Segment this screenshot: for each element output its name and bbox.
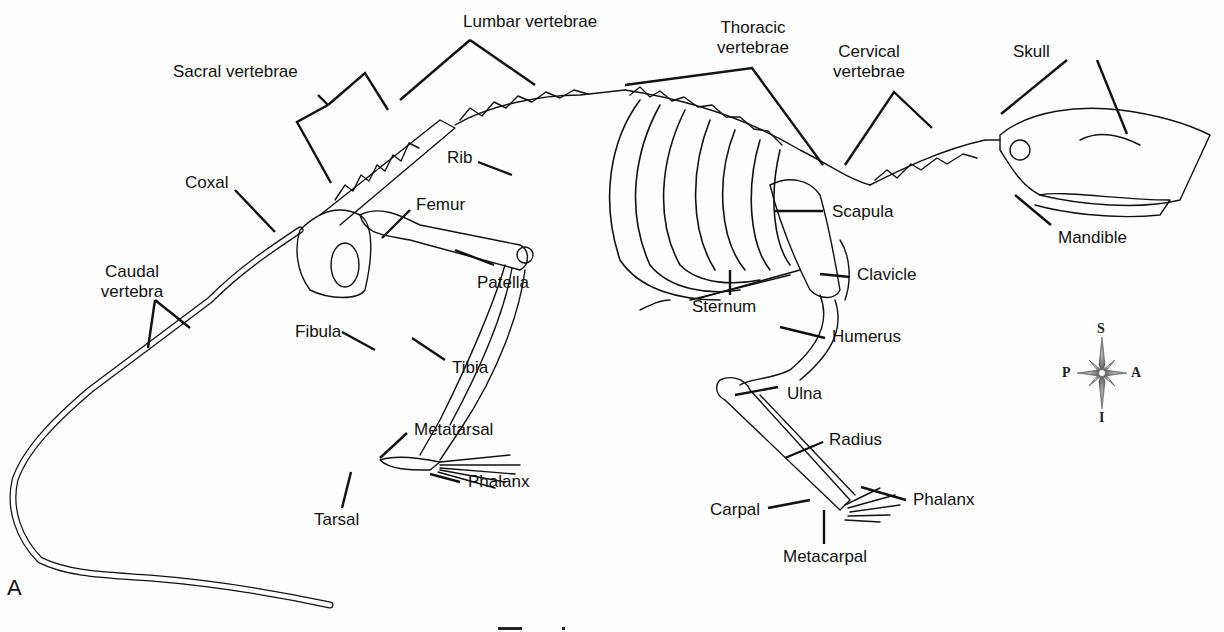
label-ulna: Ulna — [787, 384, 822, 404]
skeleton-diagram: Lumbar vertebrae Thoracic vertebrae Cerv… — [0, 0, 1224, 632]
label-mandible: Mandible — [1058, 228, 1127, 248]
caption-fragment — [498, 627, 522, 630]
label-tibia: Tibia — [452, 358, 488, 378]
label-caudal-line2: vertebra — [92, 282, 172, 302]
compass-anterior: A — [1131, 365, 1141, 381]
label-scapula: Scapula — [832, 202, 893, 222]
label-metatarsal: Metatarsal — [414, 420, 493, 440]
label-phalanx-hind: Phalanx — [468, 472, 529, 492]
label-metacarpal: Metacarpal — [783, 547, 867, 567]
label-cervical-line2: vertebrae — [826, 62, 912, 82]
compass-inferior: I — [1099, 410, 1104, 426]
label-thoracic-line1: Thoracic — [710, 18, 796, 38]
label-phalanx-fore: Phalanx — [913, 490, 974, 510]
panel-letter: A — [7, 575, 22, 601]
label-patella: Patella — [477, 273, 529, 293]
label-lumbar-vertebrae: Lumbar vertebrae — [463, 12, 597, 32]
label-caudal-vertebra: Caudal vertebra — [92, 262, 172, 302]
compass-posterior: P — [1062, 365, 1071, 381]
label-sternum: Sternum — [692, 297, 756, 317]
label-thoracic-line2: vertebrae — [710, 38, 796, 58]
label-clavicle: Clavicle — [857, 265, 917, 285]
label-caudal-line1: Caudal — [92, 262, 172, 282]
label-radius: Radius — [829, 430, 882, 450]
label-humerus: Humerus — [832, 327, 901, 347]
compass-rose: S I P A — [1065, 325, 1175, 435]
label-thoracic-vertebrae: Thoracic vertebrae — [710, 18, 796, 58]
label-rib: Rib — [447, 148, 473, 168]
label-skull: Skull — [1013, 42, 1050, 62]
label-coxal: Coxal — [185, 173, 228, 193]
compass-rose-icon — [1065, 325, 1175, 435]
compass-superior: S — [1097, 321, 1105, 337]
label-cervical-vertebrae: Cervical vertebrae — [826, 42, 912, 82]
label-tarsal: Tarsal — [314, 510, 359, 530]
label-fibula: Fibula — [295, 322, 341, 342]
caption-fragment-dot — [562, 627, 565, 630]
label-cervical-line1: Cervical — [826, 42, 912, 62]
label-carpal: Carpal — [710, 500, 760, 520]
label-femur: Femur — [416, 195, 465, 215]
skeleton-drawing — [0, 0, 1224, 632]
label-sacral-vertebrae: Sacral vertebrae — [173, 62, 298, 82]
